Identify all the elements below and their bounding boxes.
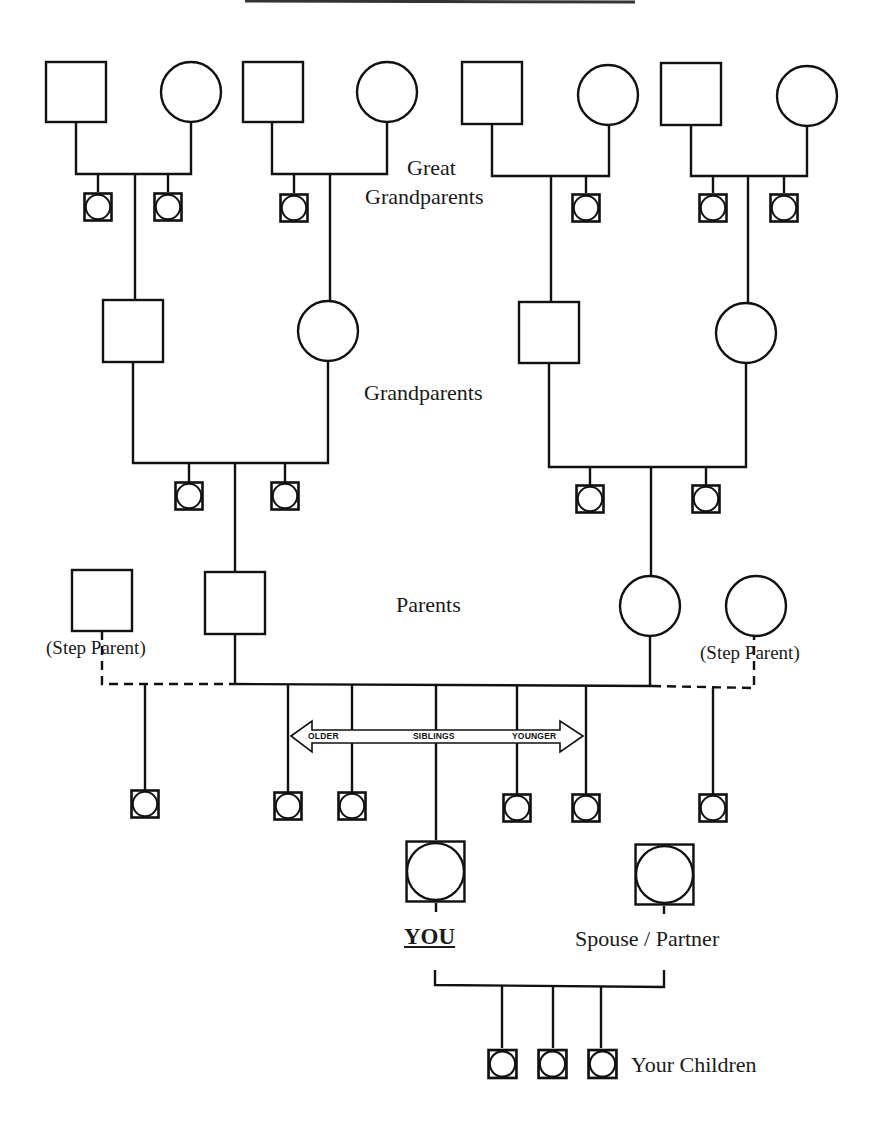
aunts-uncles (176, 483, 720, 513)
siblings (132, 791, 727, 822)
great-grandmother-4 (777, 66, 837, 126)
great-grandmother-2 (357, 62, 417, 122)
arrow-label-siblings: SIBLINGS (413, 731, 455, 741)
label-you: YOU (404, 924, 455, 950)
great-grandfather-1 (46, 62, 106, 122)
label-step-parent-right: (Step Parent) (700, 642, 800, 664)
father (205, 572, 265, 634)
mother (620, 576, 680, 636)
label-grandparents: Grandparents (364, 380, 483, 406)
label-great-grandparents: Grandparents (365, 184, 484, 210)
label-your-children: Your Children (631, 1052, 757, 1078)
you-symbol (407, 842, 465, 902)
great-grandmother-1 (161, 62, 221, 122)
grandfather-paternal (103, 300, 163, 362)
step-parent-left-symbol (72, 570, 132, 631)
label-spouse-partner: Spouse / Partner (575, 926, 719, 952)
great-grandfather-2 (243, 62, 303, 122)
arrow-label-younger: YOUNGER (512, 731, 556, 741)
children-symbols (489, 1050, 617, 1078)
grandfather-maternal (519, 302, 579, 363)
you-and-spouse (407, 842, 694, 905)
grandmother-paternal (298, 301, 358, 361)
great-grandmother-3 (578, 65, 638, 125)
grandmother-maternal (716, 303, 776, 363)
great-grandfather-4 (661, 63, 721, 125)
banner-edge (245, 1, 635, 2)
label-great: Great (407, 155, 456, 181)
step-parent-right-symbol (726, 576, 786, 636)
arrow-label-older: OLDER (308, 731, 339, 741)
spouse-symbol (636, 845, 694, 905)
great-grandfather-3 (462, 62, 522, 124)
label-step-parent-left: (Step Parent) (46, 637, 146, 659)
label-parents: Parents (396, 592, 461, 618)
